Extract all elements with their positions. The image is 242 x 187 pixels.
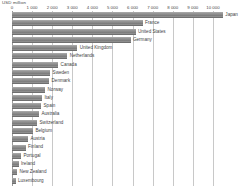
bar[interactable] xyxy=(12,103,41,109)
bar-category-label: Sweden xyxy=(50,69,69,77)
bar-category-label: Australia xyxy=(39,110,59,118)
bar[interactable] xyxy=(12,95,42,101)
bar-category-label: Luxembourg xyxy=(16,177,44,185)
bar[interactable] xyxy=(12,45,77,51)
bar-category-label: Belgium xyxy=(33,127,52,135)
bar-category-label: Canada xyxy=(58,61,76,69)
bar-category-label: Austria xyxy=(28,135,45,143)
plot-area: JapanFranceUnited StatesGermanyUnited Ki… xyxy=(12,11,231,186)
bar-category-label: Germany xyxy=(131,36,152,44)
bar-chart: USD million 01 0002 0003 0004 0005 0006 … xyxy=(0,0,242,187)
bar-category-label: Switzerland xyxy=(37,119,63,127)
bar[interactable] xyxy=(12,62,58,68)
bar[interactable] xyxy=(12,120,37,126)
bar[interactable] xyxy=(12,37,131,43)
bar-category-label: Spain xyxy=(41,102,55,110)
bar[interactable] xyxy=(12,128,33,134)
bar-category-label: Ireland xyxy=(19,160,35,168)
bar[interactable] xyxy=(12,70,50,76)
bar-category-label: Japan xyxy=(223,11,238,19)
bar-category-label: United States xyxy=(136,28,166,36)
bar-category-label: Portugal xyxy=(21,152,41,160)
bar[interactable] xyxy=(12,12,223,18)
bar-category-label: Denmark xyxy=(49,77,70,85)
bar[interactable] xyxy=(12,53,67,59)
bar[interactable] xyxy=(12,29,136,35)
bar-rows: JapanFranceUnited StatesGermanyUnited Ki… xyxy=(12,11,231,186)
bar[interactable] xyxy=(12,78,49,84)
bar-category-label: France xyxy=(143,19,160,27)
bar[interactable] xyxy=(12,136,28,142)
bar-row[interactable]: Luxembourg xyxy=(12,177,231,186)
bar-category-label: Norway xyxy=(45,86,63,94)
bar-category-label: New Zealand xyxy=(17,168,46,176)
bar[interactable] xyxy=(12,153,21,159)
bar[interactable] xyxy=(12,145,26,151)
bar[interactable] xyxy=(12,20,143,26)
bar[interactable] xyxy=(12,87,45,93)
bar[interactable] xyxy=(12,161,19,167)
bar-category-label: Italy xyxy=(42,94,53,102)
bar-category-label: Finland xyxy=(26,143,43,151)
bar-category-label: Netherlands xyxy=(67,52,94,60)
bar[interactable] xyxy=(12,111,39,117)
bar-category-label: United Kingdom xyxy=(77,44,112,52)
